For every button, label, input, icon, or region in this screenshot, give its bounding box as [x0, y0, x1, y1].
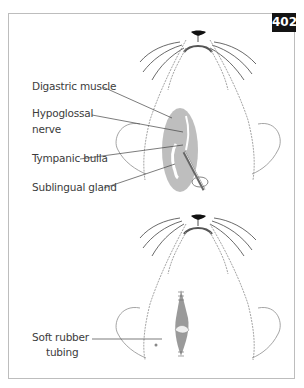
anatomy-illustration — [0, 0, 304, 388]
nose-icon — [191, 31, 206, 37]
bottom-cat-head — [116, 215, 280, 361]
label-soft-rubber-tubing-line2: tubing — [46, 346, 78, 359]
nose-icon — [191, 215, 206, 221]
top-cat-head — [116, 31, 280, 193]
label-digastric-muscle: Digastric muscle — [32, 80, 116, 93]
label-sublingual-gland: Sublingual gland — [32, 181, 117, 194]
label-hypoglossal-nerve-line2: nerve — [32, 123, 61, 136]
label-tympanic-bulla: Tympanic bulla — [32, 152, 108, 165]
label-hypoglossal-nerve-line1: Hypoglossal — [32, 107, 93, 120]
label-soft-rubber-tubing-line1: Soft rubber — [32, 331, 89, 344]
